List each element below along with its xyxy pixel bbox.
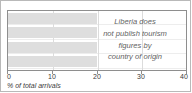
tick-label-40: 40 [180, 73, 188, 80]
bar-row-2 [8, 27, 97, 38]
bar-row-1 [8, 13, 97, 24]
row-separator [8, 68, 186, 69]
tick-label-0: 0 [7, 73, 11, 80]
tick-label-30: 30 [137, 73, 145, 80]
annotation-line-2: not publish tourism [86, 28, 184, 40]
bar-row-3 [8, 42, 97, 53]
annotation-line-1: Liberia does [86, 16, 184, 28]
annotation-line-4: country of origin [86, 51, 184, 63]
chart-annotation: Liberia does not publish tourism figures… [86, 16, 184, 63]
tick-label-10: 10 [48, 73, 56, 80]
x-axis-title: % of total arrivals [7, 82, 61, 89]
bar-row-4 [8, 56, 97, 67]
chart-card: Liberia does not publish tourism figures… [0, 0, 191, 92]
plot-area: Liberia does not publish tourism figures… [7, 10, 187, 71]
annotation-line-3: figures by [86, 40, 184, 52]
tick-label-20: 20 [93, 73, 101, 80]
